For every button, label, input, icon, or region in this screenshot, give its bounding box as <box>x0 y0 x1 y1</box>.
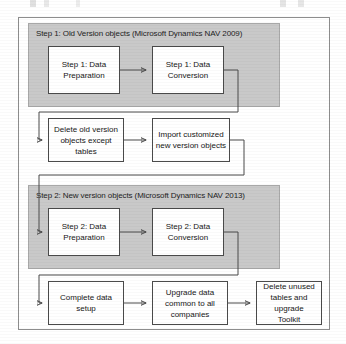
node-delete-old-version-objects: Delete old version objects except tables <box>48 118 124 162</box>
node-step2-data-conversion: Step 2: Data Conversion <box>152 208 224 256</box>
diagram-canvas: Step 1: Old Version objects (Microsoft D… <box>0 0 346 344</box>
node-delete-unused-tables-line1: Delete unused <box>259 281 319 292</box>
node-delete-unused-tables-line3: Toolkit <box>259 314 319 325</box>
node-step2-data-conversion-line1: Step 2: Data <box>166 221 210 232</box>
node-step1-data-conversion-line2: Conversion <box>166 70 210 81</box>
node-step1-data-conversion: Step 1: Data Conversion <box>152 46 224 94</box>
node-delete-old-version-objects-line1: Delete old version <box>54 124 118 135</box>
node-step2-data-conversion-line2: Conversion <box>166 232 210 243</box>
node-step1-data-preparation: Step 1: Data Preparation <box>48 46 120 94</box>
node-step2-data-preparation-line2: Preparation <box>62 232 106 243</box>
node-upgrade-data-common: Upgrade data common to all companies <box>152 281 228 325</box>
node-step1-data-preparation-line2: Preparation <box>62 70 106 81</box>
node-step2-data-preparation: Step 2: Data Preparation <box>48 208 120 256</box>
node-complete-data-setup: Complete data setup <box>48 281 124 325</box>
node-import-customized-line1: Import customized <box>156 129 226 140</box>
node-delete-old-version-objects-line2: objects except <box>54 135 118 146</box>
node-step1-data-preparation-line1: Step 1: Data <box>62 59 106 70</box>
node-complete-data-setup-line2: setup <box>60 303 112 314</box>
panel-step1-label: Step 1: Old Version objects (Microsoft D… <box>36 29 242 38</box>
node-upgrade-data-common-line2: common to all <box>165 298 215 309</box>
node-step2-data-preparation-line1: Step 2: Data <box>62 221 106 232</box>
node-delete-unused-tables: Delete unused tables and upgrade Toolkit <box>256 281 322 325</box>
node-step1-data-conversion-line1: Step 1: Data <box>166 59 210 70</box>
node-complete-data-setup-line1: Complete data <box>60 292 112 303</box>
node-upgrade-data-common-line3: companies <box>165 309 215 320</box>
node-import-customized-new-version-objects: Import customized new version objects <box>152 118 230 162</box>
node-delete-unused-tables-line2: tables and upgrade <box>259 292 319 314</box>
panel-step2-label: Step 2: New version objects (Microsoft D… <box>36 191 245 200</box>
node-upgrade-data-common-line1: Upgrade data <box>165 287 215 298</box>
page-bleed-text <box>30 0 320 7</box>
node-delete-old-version-objects-line3: tables <box>54 146 118 157</box>
node-import-customized-line2: new version objects <box>156 140 226 151</box>
